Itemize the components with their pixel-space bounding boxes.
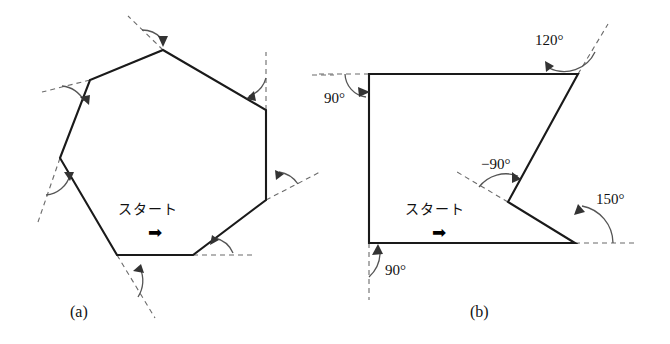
polygon-outline — [369, 74, 578, 243]
figure-root: スタート ➡ (a) 90° 120° −90° 150° 90° スタート ➡… — [0, 0, 670, 344]
panel-b-arc-arrowheads — [358, 61, 585, 255]
arc-arrowhead-bottom-left — [133, 264, 144, 273]
dashed-extension-lower-right — [266, 172, 320, 200]
panel-caption-a: (a) — [70, 303, 88, 321]
panel-b-dashed-references — [318, 24, 637, 300]
angle-arc-left — [46, 175, 70, 195]
angle-label-bottom-left-90: 90° — [385, 262, 406, 279]
panel-a-arc-arrowheads — [64, 36, 284, 273]
angle-label-top-right-120: 120° — [535, 32, 564, 49]
angle-label-bottom-right-150: 150° — [596, 191, 625, 208]
panel-b-group — [318, 24, 637, 300]
angle-label-concave-minus-90: −90° — [481, 156, 510, 173]
heptagon-outline — [60, 50, 266, 255]
angle-arc-top — [142, 30, 161, 38]
angle-arc-bottom-right-150 — [582, 206, 613, 243]
arc-arrowhead-top-right-120 — [545, 61, 554, 72]
dashed-extension-left — [38, 158, 60, 222]
dashed-extension-bottom-left — [117, 255, 155, 318]
panel-a-dashed-extensions — [38, 16, 334, 318]
start-label-a: スタート — [118, 198, 178, 218]
arc-arrowhead-top — [158, 36, 168, 47]
panel-a-angle-arcs — [46, 30, 298, 297]
panel-a-group — [38, 16, 334, 318]
start-arrow-icon-a: ➡ — [148, 224, 162, 241]
start-label-b: スタート — [405, 198, 465, 218]
angle-arc-upper-right — [249, 78, 266, 96]
angle-arc-upper-left — [62, 86, 84, 101]
dashed-extension-top-2 — [128, 16, 163, 50]
start-arrow-icon-b: ➡ — [432, 224, 446, 241]
angle-label-top-left-90: 90° — [324, 90, 345, 107]
figure-canvas — [0, 0, 670, 344]
panel-caption-b: (b) — [470, 303, 489, 321]
arc-arrowhead-bottom-left-90 — [372, 244, 383, 255]
angle-arc-top-right-120 — [549, 52, 595, 72]
